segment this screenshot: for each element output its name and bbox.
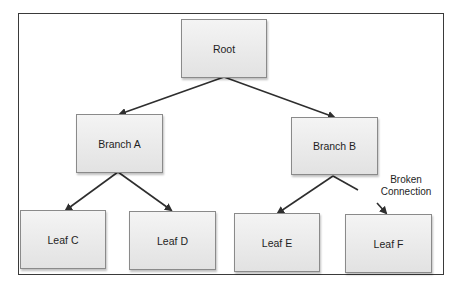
node-leaf-c: Leaf C <box>20 210 106 269</box>
node-leaf-d: Leaf D <box>129 211 216 270</box>
node-root-label: Root <box>213 43 235 55</box>
edge-broken-to-leaf-f <box>377 203 386 213</box>
edge-branch-b-to-broken <box>333 176 358 190</box>
broken-connection-line2: Connection <box>378 186 434 198</box>
node-leaf-c-label: Leaf C <box>48 234 79 246</box>
edge-root-to-branch-b <box>224 77 334 117</box>
node-leaf-f-label: Leaf F <box>374 238 404 250</box>
node-leaf-d-label: Leaf D <box>157 235 188 247</box>
edge-branch-b-to-leaf-e <box>278 176 333 213</box>
node-leaf-e-label: Leaf E <box>262 237 292 249</box>
tree-diagram: Root Branch A Branch B Leaf C Leaf D Lea… <box>0 0 460 289</box>
edge-root-to-branch-a <box>120 77 224 114</box>
node-branch-a-label: Branch A <box>98 138 141 150</box>
node-branch-b: Branch B <box>291 117 378 175</box>
node-root: Root <box>181 19 267 78</box>
broken-connection-label: Broken Connection <box>378 174 434 198</box>
node-leaf-f: Leaf F <box>345 214 432 273</box>
edge-branch-a-to-leaf-d <box>118 172 171 210</box>
node-branch-a: Branch A <box>76 114 163 173</box>
edge-branch-a-to-leaf-c <box>66 172 118 210</box>
node-branch-b-label: Branch B <box>313 140 356 152</box>
node-leaf-e: Leaf E <box>234 213 320 272</box>
broken-connection-line1: Broken <box>378 174 434 186</box>
